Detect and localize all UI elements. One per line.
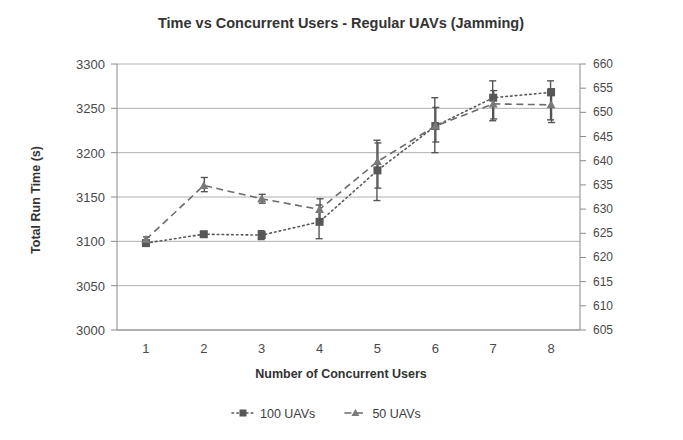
y-tick-label-right: 650 [593,105,613,119]
y-tick-label-right: 620 [593,250,613,264]
legend-marker-square [240,410,247,417]
y-tick-label-right: 605 [593,323,613,337]
x-tick-label: 8 [547,341,554,356]
data-point-marker-square [373,166,381,174]
x-tick-label: 4 [316,341,323,356]
x-tick-label: 6 [432,341,439,356]
chart-title: Time vs Concurrent Users - Regular UAVs … [158,15,524,31]
data-point-marker-triangle [373,157,382,165]
y-tick-label-right: 640 [593,154,613,168]
data-series [146,92,551,243]
y-tick-label-left: 3000 [76,323,105,338]
x-axis-title: Number of Concurrent Users [255,367,427,381]
x-tick-label: 3 [258,341,265,356]
y-tick-label-left: 3200 [76,146,105,161]
y-tick-label-left: 3250 [76,101,105,116]
y-axis-left-ticks: 3000305031003150320032503300 [76,57,117,338]
y-axis-title: Total Run Time (s) [29,146,43,254]
data-point-marker-triangle [257,194,266,202]
y-tick-label-left: 3100 [76,234,105,249]
data-point-marker-square [547,88,555,96]
data-point-marker-triangle [199,181,208,189]
data-point-marker-square [258,231,266,239]
y-tick-label-left: 3150 [76,190,105,205]
chart-container: Time vs Concurrent Users - Regular UAVs … [0,0,683,440]
y-tick-label-right: 645 [593,130,613,144]
y-tick-label-right: 610 [593,299,613,313]
y-tick-label-right: 655 [593,81,613,95]
y-tick-label-right: 625 [593,226,613,240]
y-tick-label-right: 635 [593,178,613,192]
x-tick-label: 2 [200,341,207,356]
data-point-marker-triangle [547,100,556,108]
chart-legend[interactable]: 100 UAVs50 UAVs [232,407,421,421]
data-point-marker-square [316,218,324,226]
x-tick-label: 7 [490,341,497,356]
legend-label-50-uavs[interactable]: 50 UAVs [372,407,420,421]
chart-canvas: Time vs Concurrent Users - Regular UAVs … [0,0,683,440]
x-tick-label: 5 [374,341,381,356]
x-tick-label: 1 [142,341,149,356]
series-line-50-uavs [146,104,551,240]
y-tick-label-left: 3050 [76,279,105,294]
y-axis-right-ticks: 605610615620625630635640645650655660 [580,57,613,337]
y-tick-label-right: 615 [593,275,613,289]
y-tick-label-right: 630 [593,202,613,216]
x-axis-ticks: 12345678 [142,341,554,356]
legend-label-100-uavs[interactable]: 100 UAVs [260,407,315,421]
data-point-marker-square [200,230,208,238]
series-line-100-uavs [146,92,551,243]
y-tick-label-right: 660 [593,57,613,71]
y-tick-label-left: 3300 [76,57,105,72]
